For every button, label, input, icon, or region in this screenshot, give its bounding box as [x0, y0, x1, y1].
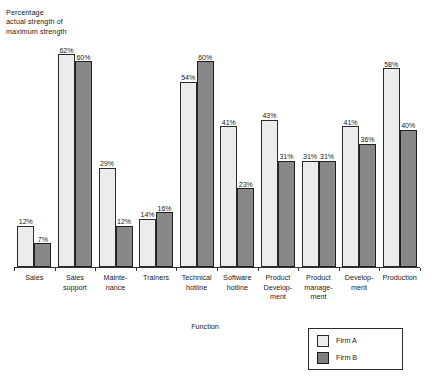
- axis-tick: [136, 268, 137, 271]
- axis-tick: [217, 268, 218, 271]
- chart-legend: Firm A Firm B: [308, 328, 403, 370]
- bar-group: 41%23%: [220, 20, 254, 267]
- bar-group: 54%60%: [180, 20, 214, 267]
- bar-group: 41%36%: [342, 20, 376, 267]
- bar: 31%: [302, 161, 319, 267]
- bar-value-label: 31%: [320, 153, 334, 160]
- bar-value-label: 43%: [262, 112, 276, 119]
- bar: 60%: [197, 61, 214, 267]
- bar: 43%: [261, 120, 278, 268]
- axis-tick: [176, 268, 177, 271]
- legend-item-firm-b: Firm B: [317, 351, 357, 364]
- category-label: Develop- ment: [339, 273, 380, 292]
- bar-group: 29%12%: [99, 20, 133, 267]
- bar: 14%: [139, 219, 156, 267]
- bar: 58%: [383, 68, 400, 267]
- axis-tick: [420, 268, 421, 271]
- bar: 60%: [75, 61, 92, 267]
- bar: 54%: [180, 82, 197, 267]
- category-axis-labels: SalesSales supportMainte- nanceTrainersT…: [14, 273, 420, 319]
- bar-group: 14%16%: [139, 20, 173, 267]
- bar: 36%: [359, 144, 376, 268]
- bar: 23%: [237, 188, 254, 267]
- bar: 41%: [342, 126, 359, 267]
- bar-chart: Percentage actual strength of maximum st…: [0, 0, 434, 377]
- axis-tick: [298, 268, 299, 271]
- bar-value-label: 29%: [100, 160, 114, 167]
- category-label: Mainte- nance: [95, 273, 136, 292]
- bar-value-label: 36%: [361, 136, 375, 143]
- legend-swatch-firm-b: [317, 352, 329, 364]
- bar: 31%: [319, 161, 336, 267]
- bar-value-label: 60%: [198, 54, 212, 61]
- bar: 41%: [220, 126, 237, 267]
- bar-group: 31%31%: [302, 20, 336, 267]
- plot-area: 12%7%62%60%29%12%14%16%54%60%41%23%43%31…: [14, 20, 420, 268]
- bar: 12%: [116, 226, 133, 267]
- bar-value-label: 41%: [222, 119, 236, 126]
- category-label: Sales: [14, 273, 55, 283]
- category-label: Sales support: [55, 273, 96, 292]
- bar-value-label: 62%: [59, 47, 73, 54]
- category-label: Product manage- ment: [298, 273, 339, 302]
- bar-group: 43%31%: [261, 20, 295, 267]
- bar: 12%: [17, 226, 34, 267]
- bar-value-label: 54%: [181, 74, 195, 81]
- bar-value-label: 14%: [141, 211, 155, 218]
- axis-tick: [95, 268, 96, 271]
- bar-group: 12%7%: [17, 20, 51, 267]
- bar: 62%: [58, 54, 75, 267]
- category-label: Software hotline: [217, 273, 258, 292]
- axis-tick: [258, 268, 259, 271]
- bar-value-label: 23%: [239, 181, 253, 188]
- bar: 7%: [34, 243, 51, 267]
- axis-tick: [14, 268, 15, 271]
- bar: 16%: [156, 212, 173, 267]
- legend-swatch-firm-a: [317, 335, 329, 347]
- axis-tick: [339, 268, 340, 271]
- category-label: Production: [379, 273, 420, 283]
- bar-value-label: 41%: [344, 119, 358, 126]
- bar: 40%: [400, 130, 417, 267]
- bar-value-label: 40%: [401, 122, 415, 129]
- category-label: Product Develop- ment: [258, 273, 299, 302]
- category-label: Trainers: [136, 273, 177, 283]
- bar-value-label: 60%: [76, 54, 90, 61]
- legend-item-firm-a: Firm A: [317, 334, 357, 347]
- bar: 31%: [278, 161, 295, 267]
- bar-value-label: 12%: [117, 218, 131, 225]
- bar-value-label: 31%: [303, 153, 317, 160]
- bar-group: 58%40%: [383, 20, 417, 267]
- bar-value-label: 12%: [19, 218, 33, 225]
- bar-value-label: 31%: [279, 153, 293, 160]
- legend-label-firm-b: Firm B: [336, 353, 357, 362]
- bar-value-label: 58%: [384, 61, 398, 68]
- legend-label-firm-a: Firm A: [336, 336, 357, 345]
- bar-value-label: 7%: [38, 236, 48, 243]
- bar-group: 62%60%: [58, 20, 92, 267]
- category-label: Technical hotline: [176, 273, 217, 292]
- x-axis-baseline: [14, 267, 420, 268]
- bar-value-label: 16%: [158, 205, 172, 212]
- bar: 29%: [99, 168, 116, 267]
- axis-tick: [379, 268, 380, 271]
- axis-tick: [55, 268, 56, 271]
